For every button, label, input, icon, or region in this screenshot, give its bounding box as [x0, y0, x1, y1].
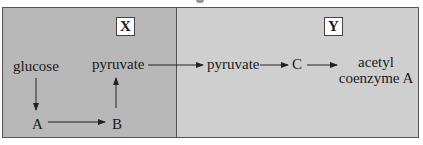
arrows-layer: [0, 0, 423, 145]
